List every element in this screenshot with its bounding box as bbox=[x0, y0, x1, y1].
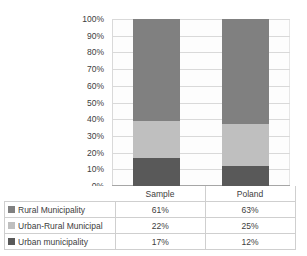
cell-rural-poland: 63% bbox=[205, 202, 295, 218]
stacked-bar-chart: 100% 90% 80% 70% 60% 50% 40% 30% 20% 10%… bbox=[0, 0, 307, 256]
table-header-poland: Poland bbox=[205, 186, 295, 202]
bar-segment-sample-urban bbox=[133, 158, 180, 186]
y-tick-60: 60% bbox=[87, 81, 104, 90]
legend-item-urban: Urban municipality bbox=[5, 234, 116, 250]
legend-label-rural: Rural Municipality bbox=[18, 205, 85, 215]
y-tick-70: 70% bbox=[87, 65, 104, 74]
bar-column-sample bbox=[133, 19, 180, 186]
table-header-sample: Sample bbox=[116, 186, 206, 202]
y-tick-30: 30% bbox=[87, 131, 104, 140]
data-table: Sample Poland Rural Municipality 61% 63%… bbox=[4, 186, 296, 250]
cell-urban-rural-poland: 25% bbox=[205, 218, 295, 234]
legend-swatch-icon bbox=[8, 222, 15, 229]
cell-urban-poland: 12% bbox=[205, 234, 295, 250]
cell-urban-sample: 17% bbox=[116, 234, 206, 250]
y-tick-100: 100% bbox=[82, 15, 104, 24]
bar-segment-sample-urban-rural bbox=[133, 121, 180, 158]
y-tick-20: 20% bbox=[87, 148, 104, 157]
y-tick-90: 90% bbox=[87, 31, 104, 40]
table-header-corner bbox=[5, 186, 116, 202]
bar-segment-poland-urban-rural bbox=[222, 124, 269, 166]
legend-item-rural: Rural Municipality bbox=[5, 202, 116, 218]
legend-swatch-icon bbox=[8, 206, 15, 213]
table-row: Urban municipality 17% 12% bbox=[5, 234, 296, 250]
legend-label-urban-rural: Urban-Rural Municipal bbox=[18, 221, 103, 231]
y-tick-10: 10% bbox=[87, 165, 104, 174]
y-tick-80: 80% bbox=[87, 48, 104, 57]
bar-column-poland bbox=[222, 19, 269, 186]
cell-urban-rural-sample: 22% bbox=[116, 218, 206, 234]
table-header-row: Sample Poland bbox=[5, 186, 296, 202]
bar-segment-poland-urban bbox=[222, 166, 269, 186]
cell-rural-sample: 61% bbox=[116, 202, 206, 218]
legend-swatch-icon bbox=[8, 238, 15, 245]
legend-label-urban: Urban municipality bbox=[18, 237, 88, 247]
table-row: Rural Municipality 61% 63% bbox=[5, 202, 296, 218]
plot-area bbox=[112, 19, 290, 186]
bar-segment-poland-rural bbox=[222, 19, 269, 124]
y-axis-labels: 100% 90% 80% 70% 60% 50% 40% 30% 20% 10%… bbox=[60, 19, 108, 186]
legend-item-urban-rural: Urban-Rural Municipal bbox=[5, 218, 116, 234]
y-tick-50: 50% bbox=[87, 98, 104, 107]
bar-segment-sample-rural bbox=[133, 19, 180, 121]
y-tick-40: 40% bbox=[87, 115, 104, 124]
table-row: Urban-Rural Municipal 22% 25% bbox=[5, 218, 296, 234]
